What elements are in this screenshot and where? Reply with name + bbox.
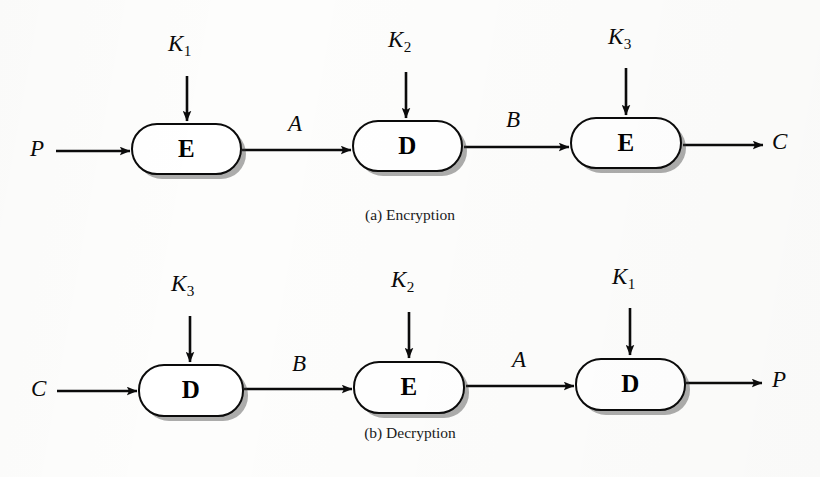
encryption-key-3-symbol: K bbox=[608, 24, 623, 49]
decryption-output-label: P bbox=[772, 368, 786, 391]
encryption-key-1-subscript: 1 bbox=[184, 42, 192, 59]
decryption-stage-1-label: D bbox=[182, 377, 201, 402]
encryption-key-3-subscript: 3 bbox=[624, 35, 632, 52]
decryption-signal-a-label: A bbox=[512, 348, 526, 371]
decryption-stage-2-label: E bbox=[400, 374, 417, 399]
decryption-stage-2-box[interactable]: E bbox=[353, 361, 465, 414]
encryption-panel: E D E K1 K2 K3 P A B C (a) Encryption bbox=[0, 0, 820, 238]
encryption-key-2-label: K2 bbox=[388, 28, 411, 51]
decryption-stage-1-box[interactable]: D bbox=[138, 364, 244, 417]
decryption-key-3-subscript: 1 bbox=[628, 275, 636, 292]
encryption-key-3-label: K3 bbox=[608, 25, 631, 48]
encryption-input-label: P bbox=[30, 137, 44, 160]
decryption-signal-b-label: B bbox=[292, 352, 306, 375]
decryption-caption: (b) Decryption bbox=[0, 424, 820, 442]
encryption-stage-1-box[interactable]: E bbox=[131, 123, 242, 175]
encryption-key-1-label: K1 bbox=[168, 32, 191, 55]
encryption-signal-a-label: A bbox=[288, 112, 302, 135]
decryption-stage-3-box[interactable]: D bbox=[575, 358, 686, 411]
encryption-stage-3-box[interactable]: E bbox=[570, 117, 682, 169]
decryption-key-1-subscript: 3 bbox=[187, 282, 195, 299]
encryption-stage-3-label: E bbox=[617, 130, 634, 155]
encryption-signal-b-label: B bbox=[506, 108, 520, 131]
decryption-panel: D E D K3 K2 K1 C B A P (b) Decryption bbox=[0, 238, 820, 477]
decryption-input-label: C bbox=[31, 377, 46, 400]
decryption-key-1-symbol: K bbox=[171, 271, 186, 296]
encryption-key-2-subscript: 2 bbox=[404, 38, 412, 55]
encryption-key-2-symbol: K bbox=[388, 27, 403, 52]
decryption-key-3-symbol: K bbox=[612, 264, 627, 289]
encryption-caption: (a) Encryption bbox=[0, 206, 820, 224]
encryption-output-label: C bbox=[772, 130, 787, 153]
encryption-stage-2-label: D bbox=[398, 133, 417, 158]
encryption-key-1-symbol: K bbox=[168, 31, 183, 56]
decryption-key-2-label: K2 bbox=[391, 268, 414, 291]
decryption-key-1-label: K3 bbox=[171, 272, 194, 295]
encryption-stage-2-box[interactable]: D bbox=[352, 120, 463, 172]
encryption-stage-1-label: E bbox=[178, 136, 195, 161]
decryption-key-2-subscript: 2 bbox=[407, 278, 415, 295]
figure-root: E D E K1 K2 K3 P A B C (a) Encryption bbox=[0, 0, 820, 477]
decryption-stage-3-label: D bbox=[621, 371, 640, 396]
decryption-key-2-symbol: K bbox=[391, 267, 406, 292]
decryption-key-3-label: K1 bbox=[612, 265, 635, 288]
